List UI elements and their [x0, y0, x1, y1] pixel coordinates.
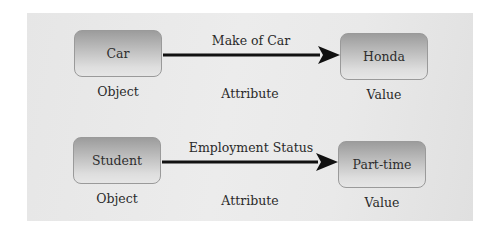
value-node-part-time: Part-time	[338, 141, 426, 188]
attribute-label-make-of-car: Make of Car	[151, 33, 351, 48]
caption-object: Object	[58, 84, 178, 99]
caption-attribute: Attribute	[190, 86, 310, 101]
object-label: Student	[92, 153, 142, 168]
arrow-row-2	[162, 153, 338, 171]
caption-value: Value	[322, 195, 442, 210]
caption-value: Value	[324, 87, 444, 102]
value-label: Part-time	[353, 157, 412, 172]
caption-object: Object	[57, 191, 177, 206]
object-node-car: Car	[74, 30, 162, 77]
arrow-row-1	[163, 46, 340, 64]
caption-attribute: Attribute	[190, 193, 310, 208]
object-node-student: Student	[73, 137, 161, 184]
value-label: Honda	[363, 49, 405, 64]
value-node-honda: Honda	[340, 33, 428, 80]
attribute-label-employment-status: Employment Status	[151, 140, 351, 155]
object-label: Car	[107, 46, 130, 61]
